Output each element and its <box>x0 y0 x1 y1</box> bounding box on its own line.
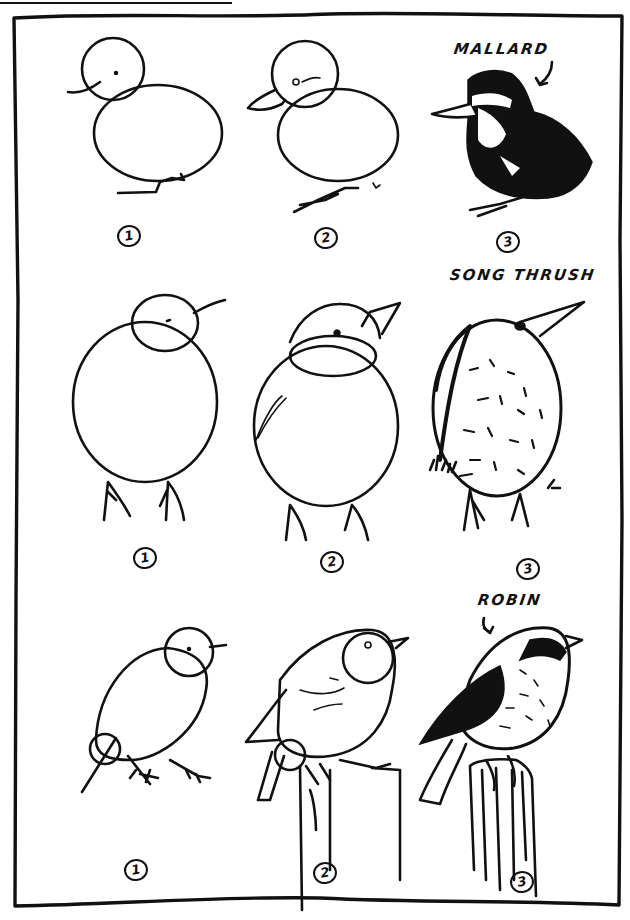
robin-label-arrow-icon <box>0 0 630 920</box>
